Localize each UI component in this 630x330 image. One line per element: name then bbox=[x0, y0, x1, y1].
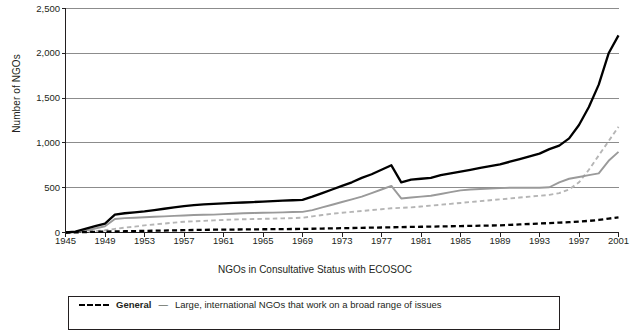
series-line-general bbox=[66, 217, 619, 232]
legend-swatch-icon bbox=[79, 304, 109, 306]
chart-legend: General—Large, international NGOs that w… bbox=[68, 296, 560, 330]
legend-item-name: General bbox=[116, 299, 151, 310]
x-axis-title: NGOs in Consultative Status with ECOSOC bbox=[0, 264, 630, 275]
legend-item-separator: — bbox=[158, 299, 168, 310]
series-line-special bbox=[66, 152, 619, 233]
legend-item: General—Large, international NGOs that w… bbox=[69, 297, 559, 312]
legend-item-description: Large, international NGOs that work on a… bbox=[175, 299, 442, 310]
